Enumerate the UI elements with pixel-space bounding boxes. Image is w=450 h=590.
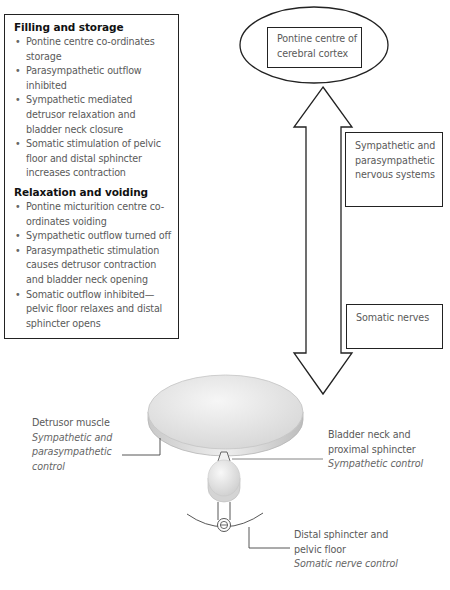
bullet-item: Pontine micturition centre co-ordinates … xyxy=(14,200,172,229)
bladder-neck-control: Sympathetic control xyxy=(328,457,448,472)
info-box: Filling and storage Pontine centre co-or… xyxy=(4,14,179,339)
voiding-bullet-list: Pontine micturition centre co-ordinates … xyxy=(14,200,172,331)
detrusor-disc xyxy=(148,375,303,456)
bladder-neck-name: Bladder neck and proximal sphincter xyxy=(328,428,448,457)
filling-bullet-list: Pontine centre co-ordinates storage Para… xyxy=(14,35,172,181)
proximal-sphincter xyxy=(208,460,240,502)
distal-control: Somatic nerve control xyxy=(294,557,414,572)
bullet-item: Somatic stimulation of pelvic floor and … xyxy=(14,137,172,181)
sympathetic-nervous-box: Sympathetic and parasympathetic nervous … xyxy=(345,132,443,207)
distal-sphincter-callout: Distal sphincter and pelvic floor Somati… xyxy=(294,528,414,572)
bullet-item: Sympathetic outflow turned off xyxy=(14,229,172,244)
section-title-filling: Filling and storage xyxy=(14,21,172,33)
distal-name: Distal sphincter and pelvic floor xyxy=(294,528,414,557)
detrusor-name: Detrusor muscle xyxy=(32,416,142,431)
distal-sphincter-ring xyxy=(218,519,231,532)
detrusor-control: Sympathetic and parasympathetic control xyxy=(32,431,142,475)
somatic-nerves-box: Somatic nerves xyxy=(346,304,443,349)
detrusor-callout: Detrusor muscle Sympathetic and parasymp… xyxy=(32,416,142,474)
bladder-neck-callout: Bladder neck and proximal sphincter Symp… xyxy=(328,428,448,472)
bullet-item: Parasympathetic outflow inhibited xyxy=(14,64,172,93)
pontine-centre-box: Pontine centre of cerebral cortex xyxy=(267,27,362,68)
bullet-item: Sympathetic mediated detrusor relaxation… xyxy=(14,93,172,137)
bullet-item: Parasympathetic stimulation causes detru… xyxy=(14,244,172,288)
section-title-voiding: Relaxation and voiding xyxy=(14,186,172,198)
double-arrow xyxy=(294,87,352,394)
bullet-item: Somatic outflow inhibited—pelvic floor r… xyxy=(14,288,172,332)
bullet-item: Pontine centre co-ordinates storage xyxy=(14,35,172,64)
distal-leader xyxy=(249,527,290,548)
